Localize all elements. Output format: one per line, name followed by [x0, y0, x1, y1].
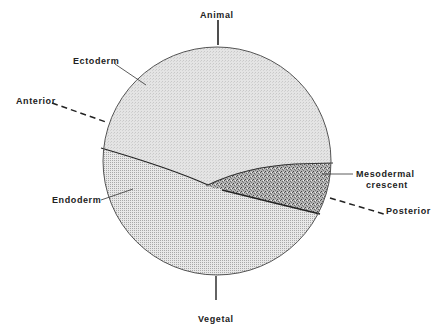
endoderm-label: Endoderm — [52, 195, 101, 206]
anterior-axis-line — [52, 103, 106, 122]
crescent-label: crescent — [366, 180, 408, 191]
mesodermal-label: Mesodermal — [356, 169, 415, 180]
vegetal-label: Vegetal — [198, 314, 234, 325]
posterior-label: Posterior — [386, 206, 431, 217]
animal-label: Animal — [200, 10, 234, 21]
posterior-axis-line — [330, 198, 384, 214]
embryo-fate-map-diagram — [0, 0, 438, 331]
ectoderm-label: Ectoderm — [73, 56, 119, 67]
ectoderm-leader-line — [115, 64, 146, 85]
anterior-label: Anterior — [16, 96, 56, 107]
